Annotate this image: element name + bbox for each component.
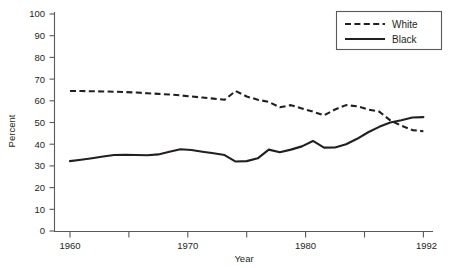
y-tick-label-90: 90 bbox=[34, 30, 45, 41]
x-tick-label-1970: 1970 bbox=[177, 240, 198, 251]
x-axis-ticks bbox=[70, 232, 423, 238]
figure-caption-remnant bbox=[14, 259, 244, 265]
y-tick-label-0: 0 bbox=[40, 225, 45, 236]
series-line-black bbox=[70, 117, 423, 161]
series-line-white bbox=[70, 91, 423, 131]
y-tick-label-50: 50 bbox=[34, 117, 45, 128]
x-tick-label-1960: 1960 bbox=[59, 240, 80, 251]
y-axis-tick-labels: 100 90 80 70 60 50 40 30 20 10 0 bbox=[29, 8, 45, 236]
y-tick-label-30: 30 bbox=[34, 160, 45, 171]
y-axis-ticks bbox=[50, 14, 55, 231]
plot-series bbox=[70, 91, 423, 162]
y-axis: 100 90 80 70 60 50 40 30 20 10 0 Percent bbox=[6, 8, 55, 236]
x-axis-tick-labels: 1960 1970 1980 1992 bbox=[59, 240, 437, 251]
legend-border bbox=[337, 12, 442, 50]
chart-legend: White Black bbox=[337, 12, 442, 50]
y-tick-label-100: 100 bbox=[29, 8, 45, 19]
x-tick-label-1992: 1992 bbox=[416, 240, 437, 251]
y-axis-title: Percent bbox=[6, 114, 17, 147]
y-tick-label-80: 80 bbox=[34, 52, 45, 63]
legend-label-black: Black bbox=[392, 34, 417, 45]
y-tick-label-10: 10 bbox=[34, 204, 45, 215]
legend-label-white: White bbox=[392, 19, 418, 30]
y-tick-label-20: 20 bbox=[34, 182, 45, 193]
y-tick-label-60: 60 bbox=[34, 95, 45, 106]
line-chart: 100 90 80 70 60 50 40 30 20 10 0 Percent bbox=[0, 0, 455, 268]
x-tick-label-1980: 1980 bbox=[295, 240, 316, 251]
y-tick-label-70: 70 bbox=[34, 74, 45, 85]
y-tick-label-40: 40 bbox=[34, 139, 45, 150]
chart-figure: 100 90 80 70 60 50 40 30 20 10 0 Percent bbox=[0, 0, 455, 268]
